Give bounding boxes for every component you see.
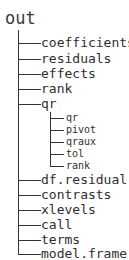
branch-line [18, 195, 41, 196]
node-qr-tol: tol [66, 148, 84, 159]
sub-branch-line [50, 118, 64, 119]
node-qr-qr: qr [66, 112, 78, 123]
branch-line [18, 225, 41, 226]
main-trunk-line [18, 30, 19, 254]
node-residuals: residuals [41, 52, 111, 66]
node-rank: rank [41, 82, 72, 96]
node-qr: qr [41, 97, 57, 111]
node-df-residual: df.residual [41, 173, 127, 187]
node-contrasts: contrasts [41, 188, 111, 202]
sub-branch-line [50, 130, 64, 131]
node-effects: effects [41, 67, 96, 81]
node-call: call [41, 218, 72, 232]
sub-branch-line [50, 142, 64, 143]
branch-line [18, 180, 41, 181]
root-node-out: out [5, 8, 36, 28]
node-model-frame: model.frame [41, 247, 127, 260]
branch-line [18, 104, 41, 105]
node-coefficients: coefficients [41, 36, 129, 50]
branch-line [18, 74, 41, 75]
node-qr-qraux: qraux [66, 136, 96, 147]
branch-line [18, 210, 41, 211]
node-xlevels: xlevels [41, 203, 96, 217]
qr-sub-trunk-line [50, 112, 51, 166]
node-terms: terms [41, 233, 80, 247]
node-qr-rank: rank [66, 160, 90, 171]
sub-branch-line [50, 154, 64, 155]
sub-branch-line [50, 166, 64, 167]
branch-line [18, 240, 41, 241]
branch-line [18, 59, 41, 60]
branch-line [18, 89, 41, 90]
branch-line [18, 254, 41, 255]
branch-line [18, 43, 41, 44]
node-qr-pivot: pivot [66, 124, 96, 135]
